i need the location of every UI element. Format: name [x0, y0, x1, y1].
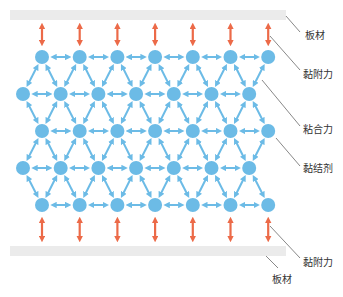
cohesion-arrow — [141, 178, 150, 195]
adhesive-particle — [224, 124, 238, 138]
cohesion-arrow — [85, 104, 94, 121]
cohesion-arrow — [28, 141, 37, 158]
cohesion-arrow — [47, 67, 56, 84]
cohesion-arrow — [66, 141, 75, 158]
adhesive-particle — [186, 124, 200, 138]
cohesion-arrow — [198, 141, 207, 158]
cohesion-arrow — [85, 141, 94, 158]
adhesive-particle — [148, 124, 162, 138]
cohesion-arrow — [198, 67, 207, 84]
cohesion-arrow — [103, 178, 112, 195]
adhesive-particle — [148, 50, 162, 64]
cohesion-arrow — [179, 178, 188, 195]
label-top-adhesion: 黏附力 — [303, 66, 333, 81]
cohesion-arrow — [66, 178, 75, 195]
cohesion-arrow — [235, 141, 244, 158]
adhesive-particle — [186, 50, 200, 64]
cohesion-arrow — [103, 141, 112, 158]
cohesion-arrow — [235, 104, 244, 121]
adhesive-particle — [16, 161, 30, 175]
adhesive-particle — [224, 50, 238, 64]
cohesion-arrow — [254, 104, 263, 121]
cohesion-arrow — [141, 67, 150, 84]
cohesion-arrow — [122, 141, 131, 158]
cohesion-arrow — [160, 67, 169, 84]
cohesion-arrow — [160, 178, 169, 195]
cohesion-arrow — [28, 178, 37, 195]
cohesion-arrow — [179, 141, 188, 158]
cohesion-arrow — [66, 67, 75, 84]
adhesive-particle — [129, 161, 143, 175]
cohesion-arrow — [122, 104, 131, 121]
adhesive-particle — [205, 161, 219, 175]
cohesion-arrow — [198, 104, 207, 121]
adhesive-particle — [16, 87, 30, 101]
adhesive-particle — [167, 87, 181, 101]
adhesive-particle — [110, 50, 124, 64]
cohesion-arrow — [47, 104, 56, 121]
adhesive-particle — [110, 198, 124, 212]
cohesion-arrow — [217, 104, 226, 121]
adhesive-particle — [54, 87, 68, 101]
adhesive-particle — [186, 198, 200, 212]
adhesive-particle — [167, 161, 181, 175]
cohesion-arrow — [160, 104, 169, 121]
adhesive-particle — [242, 87, 256, 101]
label-bottom-adhesion: 黏附力 — [303, 254, 333, 269]
adhesive-particle — [91, 161, 105, 175]
adhesive-particle — [148, 198, 162, 212]
cohesion-arrow — [160, 141, 169, 158]
cohesion-arrow — [85, 178, 94, 195]
adhesive-particle — [205, 87, 219, 101]
cohesion-arrow — [198, 178, 207, 195]
adhesive-particle — [242, 161, 256, 175]
diagram-artwork — [0, 0, 343, 297]
bottom-plate — [10, 246, 286, 256]
cohesion-arrow — [235, 178, 244, 195]
adhesive-particle — [110, 124, 124, 138]
label-top-plate: 板材 — [305, 27, 325, 42]
adhesive-particle — [35, 124, 49, 138]
adhesive-particle — [73, 50, 87, 64]
label-adhesive: 黏结剂 — [303, 160, 333, 175]
adhesive-particle — [35, 50, 49, 64]
adhesive-particle — [261, 124, 275, 138]
cohesion-arrow — [122, 67, 131, 84]
cohesion-arrow — [28, 104, 37, 121]
cohesion-arrow — [28, 67, 37, 84]
cohesion-arrow — [141, 104, 150, 121]
label-cohesion: 粘合力 — [303, 121, 333, 136]
cohesion-arrow — [103, 104, 112, 121]
label-bottom-plate: 板材 — [272, 271, 292, 286]
cohesion-arrow — [179, 104, 188, 121]
cohesion-arrow — [47, 141, 56, 158]
cohesion-arrow — [254, 178, 263, 195]
cohesion-arrow — [179, 67, 188, 84]
adhesive-particle — [129, 87, 143, 101]
adhesive-particle — [261, 198, 275, 212]
cohesion-arrow — [254, 67, 263, 84]
cohesion-arrow — [217, 67, 226, 84]
adhesive-particle — [35, 198, 49, 212]
cohesion-arrow — [254, 141, 263, 158]
cohesion-arrow — [217, 141, 226, 158]
adhesive-particle — [91, 87, 105, 101]
cohesion-arrow — [103, 67, 112, 84]
cohesion-arrow — [141, 141, 150, 158]
top-plate — [10, 10, 286, 20]
cohesion-arrow — [47, 178, 56, 195]
cohesion-arrow — [217, 178, 226, 195]
adhesive-particle — [73, 124, 87, 138]
cohesion-arrow — [66, 104, 75, 121]
adhesive-particle — [54, 161, 68, 175]
cohesion-arrow — [235, 67, 244, 84]
cohesion-arrow — [85, 67, 94, 84]
cohesion-arrow — [122, 178, 131, 195]
adhesive-particle — [261, 50, 275, 64]
adhesive-particle — [224, 198, 238, 212]
adhesion-diagram: 板材 黏附力 粘合力 黏结剂 黏附力 板材 — [0, 0, 343, 297]
adhesive-particle — [73, 198, 87, 212]
